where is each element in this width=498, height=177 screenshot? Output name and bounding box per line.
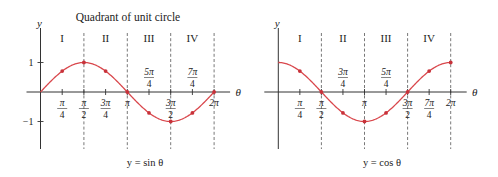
tick-denominator: 4 xyxy=(297,110,302,120)
y-tick-label: −1 xyxy=(23,116,34,127)
tick-numerator: 3π xyxy=(165,98,176,108)
data-point-marker xyxy=(191,111,195,115)
data-point-marker xyxy=(427,69,431,73)
data-point-marker xyxy=(82,61,86,65)
x-axis-label: θ xyxy=(235,86,241,98)
quadrant-label: IV xyxy=(423,32,435,44)
x-tick-label: π xyxy=(125,98,130,108)
tick-numerator: π xyxy=(362,98,367,108)
tick-numerator: 5π xyxy=(381,67,391,77)
x-tick-label: 7π4 xyxy=(424,98,434,120)
tick-denominator: 4 xyxy=(103,110,108,120)
tick-numerator: π xyxy=(319,98,324,108)
trig-graphs-figure: Quadrant of unit circle θyIIIIIIIVπ4π23π… xyxy=(0,0,498,177)
x-tick-label: π4 xyxy=(295,98,305,120)
x-tick-label: π4 xyxy=(57,98,67,120)
x-tick-label: 5π4 xyxy=(144,67,154,89)
x-tick-label: 5π4 xyxy=(381,67,391,89)
data-point-marker xyxy=(147,111,151,115)
data-point-marker xyxy=(384,111,388,115)
quadrant-label: I xyxy=(60,32,64,44)
tick-numerator: 7π xyxy=(424,98,434,108)
data-point-marker xyxy=(104,69,108,73)
tick-numerator: 2π xyxy=(209,98,219,108)
quadrant-label: II xyxy=(102,32,110,44)
chart-caption: y = cos θ xyxy=(363,157,401,168)
quadrant-label: I xyxy=(298,32,302,44)
data-point-marker xyxy=(169,120,173,124)
y-axis-label: y xyxy=(36,17,42,29)
x-tick-label: 3π4 xyxy=(337,67,348,89)
quadrant-label: III xyxy=(381,32,392,44)
data-point-marker xyxy=(212,90,216,94)
tick-denominator: 2 xyxy=(319,110,324,120)
quadrant-label: IV xyxy=(187,32,199,44)
tick-denominator: 2 xyxy=(82,110,87,120)
tick-denominator: 4 xyxy=(427,110,432,120)
chart-caption: y = sin θ xyxy=(127,157,163,168)
tick-numerator: 3π xyxy=(337,67,348,77)
tick-numerator: 3π xyxy=(402,98,413,108)
tick-numerator: 5π xyxy=(144,67,154,77)
x-tick-label: 7π4 xyxy=(187,67,197,89)
data-point-marker xyxy=(298,69,302,73)
tick-denominator: 2 xyxy=(168,110,173,120)
tick-denominator: 4 xyxy=(147,79,152,89)
sine-chart: θyIIIIIIIVπ4π23π4π5π43π27π42π1−1y = sin … xyxy=(23,17,242,168)
tick-numerator: 3π xyxy=(100,98,111,108)
x-tick-label: 3π2 xyxy=(165,98,176,120)
tick-numerator: 2π xyxy=(446,98,456,108)
tick-numerator: π xyxy=(60,98,65,108)
y-tick-label: 1 xyxy=(29,57,34,68)
data-point-marker xyxy=(320,90,324,94)
x-tick-label: π xyxy=(362,98,367,108)
tick-denominator: 4 xyxy=(190,79,195,89)
x-tick-label: π2 xyxy=(79,98,89,120)
tick-numerator: π xyxy=(125,98,130,108)
data-point-marker xyxy=(406,90,410,94)
y-axis-label: y xyxy=(274,17,280,29)
data-point-marker xyxy=(341,111,345,115)
tick-numerator: π xyxy=(82,98,87,108)
tick-numerator: 7π xyxy=(188,67,198,77)
tick-denominator: 4 xyxy=(341,79,346,89)
cosine-chart: θyIIIIIIIVπ4π23π4π5π43π27π42πy = cos θ xyxy=(264,17,478,168)
x-tick-label: 2π xyxy=(446,98,456,108)
data-point-marker xyxy=(449,61,453,65)
figure-title: Quadrant of unit circle xyxy=(76,11,180,23)
data-point-marker xyxy=(60,69,64,73)
data-point-marker xyxy=(125,90,129,94)
data-point-marker xyxy=(363,120,367,124)
x-tick-label: 2π xyxy=(209,98,219,108)
quadrant-label: III xyxy=(144,32,155,44)
tick-denominator: 2 xyxy=(405,110,410,120)
x-tick-label: π2 xyxy=(316,98,326,120)
tick-denominator: 4 xyxy=(60,110,65,120)
x-tick-label: 3π2 xyxy=(402,98,413,120)
x-tick-label: 3π4 xyxy=(100,98,111,120)
x-axis-label: θ xyxy=(472,86,478,98)
tick-denominator: 4 xyxy=(384,79,389,89)
quadrant-label: II xyxy=(339,32,347,44)
tick-numerator: π xyxy=(297,98,302,108)
